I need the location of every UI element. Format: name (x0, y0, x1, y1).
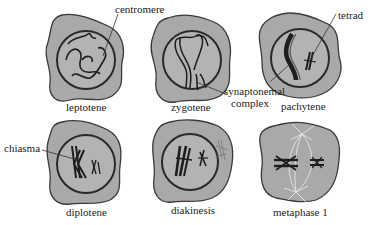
stage-label-pachytene: pachytene (281, 101, 326, 112)
stage-label-diplotene: diplotene (66, 207, 107, 218)
annotation-synaptonemal-line2: complex (231, 98, 269, 109)
cell-zygotene (151, 15, 230, 102)
annotation-tetrad: tetrad (338, 10, 363, 21)
stage-label-zygotene: zygotene (171, 102, 211, 113)
stage-label-diakinesis: diakinesis (171, 205, 215, 216)
cell-metaphase-1 (260, 122, 340, 202)
annotation-synaptonemal-line1: synaptonemal (224, 86, 285, 97)
annotation-centromere: centromere (115, 4, 164, 15)
cell-diakinesis (153, 120, 233, 202)
cell-diplotene (42, 121, 121, 205)
annotation-chiasma: chiasma (4, 143, 40, 154)
cell-leptotene (46, 14, 123, 101)
stage-label-leptotene: leptotene (66, 102, 106, 113)
stage-label-metaphase-1: metaphase 1 (273, 207, 328, 218)
